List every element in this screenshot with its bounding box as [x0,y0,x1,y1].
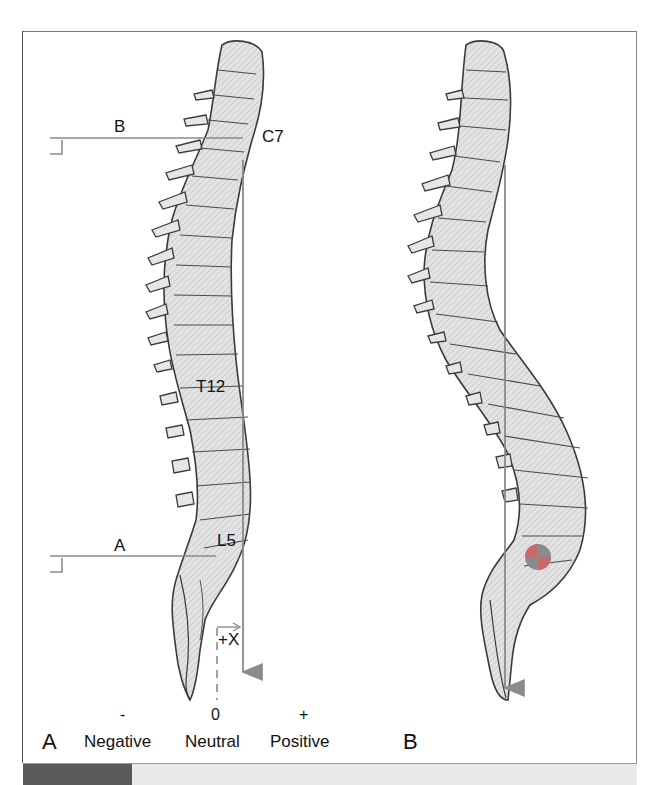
center-of-mass-marker [525,544,551,570]
vertebra-label-l5: L5 [217,531,236,551]
spine-illustrations [0,0,649,785]
scale-label-positive: Positive [270,732,330,752]
bottom-bar [23,763,637,785]
scale-tick-neutral: 0 [211,706,220,724]
scale-label-neutral: Neutral [185,732,240,752]
panel-label-a: A [42,729,57,755]
scale-tick-positive: + [299,706,308,724]
spine-b [408,41,588,700]
panel-label-b: B [403,729,418,755]
offset-label: +X [218,630,239,650]
scale-label-negative: Negative [84,732,151,752]
bottom-bar-dark-segment [23,764,132,785]
vertebra-label-c7: C7 [262,127,284,147]
scale-tick-negative: - [120,706,125,724]
vertebra-label-t12: T12 [196,377,225,397]
spine-a [146,41,264,700]
reference-label-b: B [114,117,125,137]
reference-label-a: A [114,536,125,556]
